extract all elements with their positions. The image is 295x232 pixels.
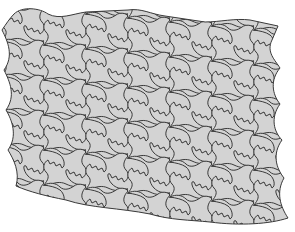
tessellation-canvas [0, 0, 295, 232]
tessellation-artwork [0, 0, 295, 232]
